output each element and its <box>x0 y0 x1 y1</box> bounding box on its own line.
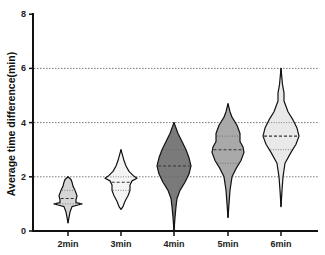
y-tick-label: 4 <box>21 118 26 128</box>
violins <box>54 68 299 231</box>
y-tick-label: 6 <box>21 63 26 73</box>
violin-body <box>212 104 244 218</box>
violin-2min <box>54 177 82 223</box>
violin-body <box>263 68 299 206</box>
x-tick-label: 5min <box>217 239 238 249</box>
x-tick-label: 6min <box>270 239 291 249</box>
x-tick-label: 4min <box>163 239 184 249</box>
x-ticks: 2min3min4min5min6min <box>57 231 291 249</box>
y-tick-label: 0 <box>21 226 26 236</box>
y-axis-title: Average time difference(min) <box>5 52 17 196</box>
violin-4min <box>157 123 191 231</box>
violin-body <box>54 177 82 223</box>
y-ticks: 02468 <box>21 9 33 236</box>
violin-3min <box>105 150 137 210</box>
y-tick-label: 8 <box>21 9 26 19</box>
violin-6min <box>263 68 299 206</box>
x-tick-label: 2min <box>57 239 78 249</box>
x-tick-label: 3min <box>110 239 131 249</box>
violin-5min <box>212 104 244 218</box>
violin-body <box>105 150 137 210</box>
violin-chart: 02468 2min3min4min5min6min Average time … <box>0 0 325 255</box>
y-tick-label: 2 <box>21 172 26 182</box>
